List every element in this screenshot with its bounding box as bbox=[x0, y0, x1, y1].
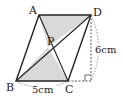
base-label: 5cm bbox=[32, 84, 54, 95]
label-p: P bbox=[47, 35, 55, 48]
right-angle-mark bbox=[85, 75, 91, 81]
height-label: 6cm bbox=[95, 44, 117, 55]
label-a: A bbox=[28, 4, 38, 17]
parallelogram-diagram: A D B C P 6cm 5cm bbox=[0, 0, 123, 101]
label-d: D bbox=[93, 6, 102, 19]
label-c: C bbox=[65, 83, 73, 96]
label-b: B bbox=[6, 81, 14, 94]
